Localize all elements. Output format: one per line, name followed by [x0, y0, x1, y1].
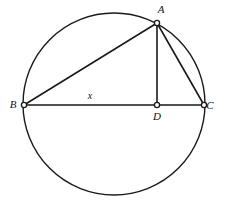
point-label-b: B	[10, 98, 17, 110]
length-label-x: x	[87, 90, 93, 101]
vertex-marker-d	[154, 102, 159, 107]
point-label-c: C	[206, 99, 214, 111]
segment-ac	[157, 23, 204, 105]
point-label-a: A	[157, 3, 165, 15]
vertex-marker-a	[154, 20, 159, 25]
geometry-figure: A B C D x	[0, 0, 227, 208]
vertex-marker-b	[21, 102, 26, 107]
geometry-canvas: A B C D x	[0, 0, 227, 208]
point-label-d: D	[152, 110, 161, 122]
circumscribed-circle	[23, 13, 205, 195]
